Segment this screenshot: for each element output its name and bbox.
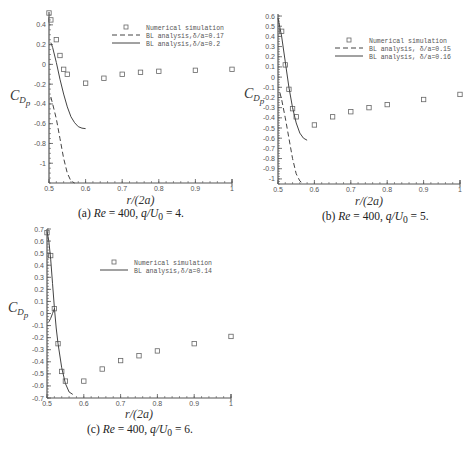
data-point <box>137 354 141 358</box>
caption-q: q/U <box>150 423 167 435</box>
y-tick-label: -0.6 <box>34 120 46 127</box>
y-tick-label: -0.3 <box>263 104 275 111</box>
caption-re: Re <box>94 207 106 219</box>
x-tick-label: 0.7 <box>346 186 356 193</box>
y-tick-label: -0.2 <box>34 81 46 88</box>
data-point <box>421 97 425 101</box>
y-tick-label: -0.5 <box>263 125 275 132</box>
y-tick-label: -0.4 <box>32 358 44 365</box>
caption-label: (a) <box>78 207 91 219</box>
legend-label: Numerical simulation <box>146 25 224 32</box>
data-point <box>192 341 196 345</box>
y-tick-label: 0.2 <box>36 41 46 48</box>
x-axis-label: r/(2a) <box>355 194 383 208</box>
caption-re-value: = 400, <box>118 423 148 435</box>
y-axis-label: CDp <box>8 300 29 320</box>
data-point <box>65 72 69 76</box>
caption-q: q/U <box>386 210 403 222</box>
y-tick-label: -0.6 <box>32 382 44 389</box>
x-tick-label: 0.9 <box>419 186 429 193</box>
x-tick-label: 0.7 <box>116 400 126 407</box>
data-point <box>58 53 62 57</box>
data-point <box>155 349 159 353</box>
legend-square-icon <box>347 38 351 42</box>
caption-re: Re <box>338 210 350 222</box>
y-tick-label: 0.6 <box>34 238 44 245</box>
caption-q-value: = 5. <box>411 210 429 222</box>
y-tick-label: 0.1 <box>265 63 275 70</box>
legend-label: Numerical simulation <box>369 38 447 45</box>
data-point <box>138 70 142 74</box>
data-point <box>54 37 58 41</box>
data-point <box>61 67 65 71</box>
y-axis-label: CDp <box>10 88 31 108</box>
legend-label: BL analysis, δ/a=0.15 <box>369 46 451 53</box>
x-tick-label: 1 <box>458 186 462 193</box>
y-tick-label: 0.7 <box>34 226 44 233</box>
x-tick-label: 0.6 <box>310 186 320 193</box>
x-tick-label: 0.5 <box>44 185 54 192</box>
legend-square-icon <box>124 25 128 29</box>
subplot-a: 0.50.60.70.80.910.40.20-0.2-0.4-0.6-0.8-… <box>10 11 234 207</box>
legend-label: BL analysis,δ/a=0.2 <box>146 41 220 48</box>
figure-canvas: 0.50.60.70.80.910.40.20-0.2-0.4-0.6-0.8-… <box>0 0 471 451</box>
y-tick-label: 0.2 <box>265 53 275 60</box>
caption-q-value: = 6. <box>175 423 193 435</box>
caption-q: q/U <box>141 207 158 219</box>
y-tick-label: 0.6 <box>265 13 275 20</box>
caption-re-value: = 400, <box>109 207 139 219</box>
caption-q-sub: 0 <box>158 211 163 222</box>
data-point <box>349 110 353 114</box>
y-axis-label: CDp <box>244 86 265 106</box>
y-tick-label: 0 <box>40 310 44 317</box>
y-tick-label: -0.8 <box>263 155 275 162</box>
data-point <box>120 72 124 76</box>
data-point <box>82 379 86 383</box>
data-point <box>385 102 389 106</box>
y-tick-label: 0.3 <box>34 274 44 281</box>
data-point <box>157 69 161 73</box>
x-tick-label: 0.7 <box>117 185 127 192</box>
y-tick-label: -1 <box>40 160 46 167</box>
data-point <box>230 67 234 71</box>
data-point <box>312 123 316 127</box>
legend-square-icon <box>112 260 116 264</box>
caption-a: (a) Re = 400, q/U0 = 4. <box>78 207 184 222</box>
data-point <box>83 81 87 85</box>
x-tick-label: 1 <box>229 400 233 407</box>
y-tick-label: -0.9 <box>263 165 275 172</box>
data-point <box>100 367 104 371</box>
y-tick-label: 0.4 <box>36 21 46 28</box>
legend-label: BL analysis,δ/a=0.17 <box>146 33 224 40</box>
y-tick-label: -0.7 <box>32 395 44 402</box>
x-tick-label: 0.8 <box>154 185 164 192</box>
y-tick-label: -1 <box>269 175 275 182</box>
data-point <box>102 76 106 80</box>
y-tick-label: 0.5 <box>34 250 44 257</box>
subplot-b: 0.50.60.70.80.910.60.50.40.30.20.10-0.1-… <box>244 13 462 208</box>
caption-re-value: = 400, <box>353 210 383 222</box>
x-axis-label: r/(2a) <box>125 407 153 421</box>
y-tick-label: 0.2 <box>34 286 44 293</box>
caption-label: (b) <box>322 210 335 222</box>
x-tick-label: 0.8 <box>153 400 163 407</box>
data-point <box>229 334 233 338</box>
caption-q-value: = 4. <box>166 207 184 219</box>
legend-label: BL analysis,δ/a=0.14 <box>134 268 212 275</box>
x-tick-label: 1 <box>230 185 234 192</box>
caption-b: (b) Re = 400, q/U0 = 5. <box>322 210 429 225</box>
data-point <box>118 358 122 362</box>
caption-label: (c) <box>87 423 100 435</box>
x-tick-label: 0.8 <box>382 186 392 193</box>
x-tick-label: 0.5 <box>273 186 283 193</box>
series-line <box>278 18 307 140</box>
y-tick-label: -0.4 <box>34 100 46 107</box>
y-tick-label: 0.4 <box>265 33 275 40</box>
data-point <box>458 92 462 96</box>
x-tick-label: 0.9 <box>189 400 199 407</box>
x-axis-label: r/(2a) <box>127 193 155 207</box>
y-tick-label: 0 <box>271 74 275 81</box>
x-tick-label: 0.6 <box>81 185 91 192</box>
legend-label: BL analysis, δ/a=0.16 <box>369 54 451 61</box>
y-tick-label: 0 <box>42 61 46 68</box>
